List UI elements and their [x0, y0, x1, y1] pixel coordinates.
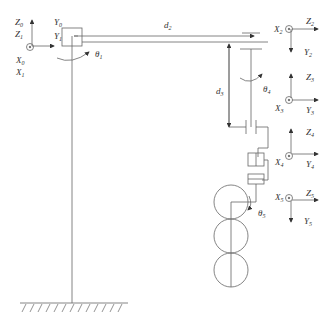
label-z1: Z1 [15, 29, 23, 40]
label-z2: Z2 [306, 16, 314, 27]
label-y4: Y4 [306, 159, 314, 170]
label-x0: X0 [15, 55, 25, 66]
label-y2: Y2 [304, 47, 312, 58]
label-theta5: θ5 [258, 208, 265, 219]
theta-1-arc [57, 52, 89, 60]
label-y0: Y0 [54, 17, 62, 28]
label-theta1: θ1 [95, 49, 102, 60]
label-d2: d2 [164, 20, 172, 31]
label-z5: Z5 [306, 188, 314, 199]
label-y5: Y5 [304, 216, 312, 227]
ground [20, 303, 128, 312]
label-z4: Z4 [306, 127, 314, 138]
label-theta4: θ4 [263, 84, 270, 95]
label-x5: X5 [274, 192, 284, 203]
label-d3: d3 [216, 86, 224, 97]
kinematic-diagram: Z0 Z1 Y0 Y1 X0 X1 θ1 d2 d3 θ4 θ5 X2 Z2 Y… [0, 0, 331, 328]
label-z3: Z3 [306, 72, 314, 83]
label-x4: X4 [274, 157, 284, 168]
label-x2: X2 [273, 24, 283, 35]
label-y1: Y1 [54, 31, 62, 42]
label-x3: X3 [274, 103, 284, 114]
theta-5-arc [248, 196, 251, 210]
label-y3: Y3 [306, 105, 314, 116]
label-x1: X1 [15, 67, 25, 78]
frame-0-1-axes [27, 20, 55, 51]
frame-2-axes [286, 26, 319, 53]
label-z0: Z0 [15, 17, 23, 28]
